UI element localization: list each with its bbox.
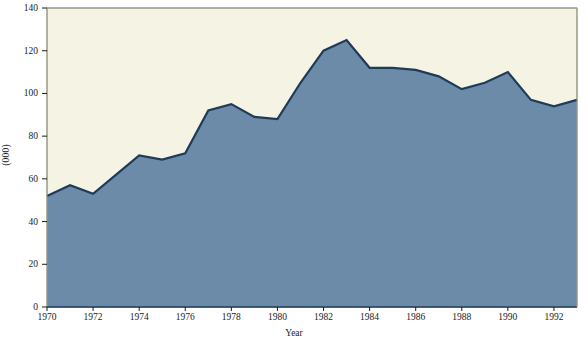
x-tick-label: 1974 <box>116 312 162 323</box>
y-tick-label: 80 <box>8 131 38 141</box>
y-tick-label: 60 <box>8 174 38 184</box>
x-tick-label: 1972 <box>70 312 116 323</box>
area-chart-figure: 020406080100120140 197019721974197619781… <box>0 0 588 342</box>
x-tick-label: 1978 <box>208 312 254 323</box>
x-axis-title: Year <box>0 328 588 339</box>
x-tick-label: 1984 <box>347 312 393 323</box>
y-tick-marks <box>42 8 47 307</box>
x-tick-label: 1988 <box>439 312 485 323</box>
y-tick-label: 0 <box>8 302 38 312</box>
y-tick-label: 100 <box>8 88 38 98</box>
plot-canvas <box>0 0 588 342</box>
y-tick-label: 40 <box>8 217 38 227</box>
x-tick-label: 1992 <box>531 312 577 323</box>
y-tick-label: 20 <box>8 259 38 269</box>
y-axis-title: (000) <box>1 133 11 177</box>
x-tick-label: 1986 <box>393 312 439 323</box>
x-tick-label: 1980 <box>254 312 300 323</box>
y-tick-label: 140 <box>8 3 38 13</box>
x-tick-label: 1976 <box>162 312 208 323</box>
x-tick-label: 1970 <box>24 312 70 323</box>
y-tick-label: 120 <box>8 46 38 56</box>
x-tick-label: 1982 <box>301 312 347 323</box>
x-tick-label: 1990 <box>485 312 531 323</box>
